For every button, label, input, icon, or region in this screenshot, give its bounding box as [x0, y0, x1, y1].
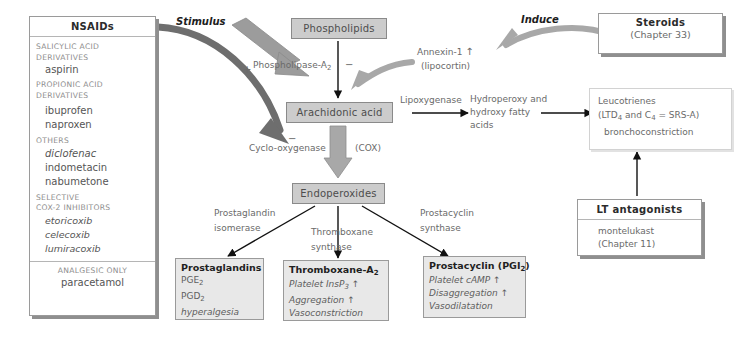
annexin-up-arrow-icon: ↑: [465, 46, 473, 57]
prostaglandin-isomerase-label: Prostaglandinisomerase: [214, 206, 275, 236]
prostacyclin-synthase-label: Prostacyclinsynthase: [420, 206, 474, 236]
thromboxane-synthase-label: Thromboxanesynthase: [311, 225, 373, 255]
nsaids-drug-naproxen[interactable]: naproxen: [36, 118, 149, 132]
phospholipase-plus-sign: +: [243, 64, 251, 76]
nsaids-category-salicylic: SALICYLIC ACIDDERIVATIVES: [36, 42, 149, 63]
arrow-annexin-to-phospholipase: [351, 62, 412, 90]
nsaids-drug-indometacin[interactable]: indometacin: [36, 161, 149, 175]
prostacyclin-line-2: Disaggregation ↑: [429, 287, 520, 300]
prostaglandins-box[interactable]: Prostaglandins PGE2 PGD2 hyperalgesia: [175, 258, 264, 320]
thromboxane-title: Thromboxane-A2: [289, 264, 383, 277]
thromboxane-up-arrow-1-icon: ↑: [352, 279, 360, 289]
leucotrienes-line-3: bronchoconstriction: [598, 125, 723, 139]
nsaids-header: NSAIDs: [30, 17, 155, 37]
phospholipids-label: Phospholipids: [303, 23, 374, 34]
cox-abbreviation-label: (COX): [355, 142, 381, 154]
prostaglandins-line-2: PGD2: [181, 290, 258, 306]
nsaids-category-analgesic: ANALGESIC ONLY: [36, 266, 149, 277]
prostaglandins-title: Prostaglandins: [181, 262, 258, 273]
phospholipase-text: Phospholipase-A: [253, 60, 327, 70]
phospholipase-minus-sign: −: [345, 59, 353, 71]
nsaids-body: SALICYLIC ACIDDERIVATIVES aspirin PROPIO…: [30, 37, 155, 294]
phospholipids-box[interactable]: Phospholipids: [291, 18, 387, 39]
endoperoxides-box[interactable]: Endoperoxides: [292, 183, 385, 204]
nsaids-drug-ibuprofen[interactable]: ibuprofen: [36, 104, 149, 118]
annexin-text: Annexin-1: [417, 47, 462, 57]
leucotrienes-line-2: (LTD4 and C4 = SRS-A): [598, 108, 723, 125]
prostacyclin-up-arrow-2-icon: ↑: [501, 288, 509, 298]
thromboxane-up-arrow-2-icon: ↑: [347, 295, 355, 305]
lt-antagonists-header: LT antagonists: [578, 200, 701, 220]
hydroperoxy-label: Hydroperoxy andhydroxy fattyacids: [470, 93, 547, 132]
arrow-arachidonic-to-endoperoxides: [324, 126, 352, 178]
leucotrienes-box[interactable]: Leucotrienes (LTD4 and C4 = SRS-A) bronc…: [589, 88, 732, 150]
nsaids-drug-lumiracoxib[interactable]: lumiracoxib: [36, 242, 149, 256]
prostacyclin-box[interactable]: Prostacyclin (PGI2) Platelet cAMP ↑ Disa…: [423, 256, 526, 318]
arrow-steroids-to-annexin: [496, 28, 612, 50]
lipoxygenase-label: Lipoxygenase: [400, 94, 462, 106]
nsaids-drug-aspirin[interactable]: aspirin: [36, 63, 149, 77]
lt-antagonists-body: montelukast (Chapter 11): [578, 220, 701, 251]
stimulus-label: Stimulus: [176, 16, 225, 28]
lt-antagonists-box[interactable]: LT antagonists montelukast (Chapter 11): [577, 199, 702, 256]
prostacyclin-line-1: Platelet cAMP ↑: [429, 274, 520, 287]
nsaids-category-others: OTHERS: [36, 136, 149, 147]
annexin-label: Annexin-1 ↑: [417, 46, 474, 58]
leucotrienes-line-1: Leucotrienes: [598, 94, 723, 108]
nsaids-drug-paracetamol[interactable]: paracetamol: [36, 276, 149, 290]
steroids-reference: (Chapter 33): [599, 29, 722, 40]
lt-antagonists-reference: (Chapter 11): [598, 238, 701, 251]
nsaids-category-propionic: PROPIONIC ACIDDERIVATIVES: [36, 80, 149, 101]
thromboxane-box[interactable]: Thromboxane-A2 Platelet InsP3 ↑ Aggregat…: [283, 260, 389, 321]
nsaids-drug-nabumetone[interactable]: nabumetone: [36, 175, 149, 189]
nsaids-box[interactable]: NSAIDs SALICYLIC ACIDDERIVATIVES aspirin…: [29, 16, 156, 316]
prostaglandins-line-3: hyperalgesia: [181, 306, 258, 319]
prostacyclin-line-3: Vasodilatation: [429, 300, 520, 313]
lipocortin-label: (lipocortin): [421, 60, 470, 72]
thromboxane-line-1: Platelet InsP3 ↑: [289, 278, 383, 294]
endoperoxides-label: Endoperoxides: [300, 188, 376, 199]
phospholipase-label: Phospholipase-A2: [253, 59, 331, 74]
nsaids-drug-etoricoxib[interactable]: etoricoxib: [36, 214, 149, 228]
nsaids-drug-celecoxib[interactable]: celecoxib: [36, 228, 149, 242]
nsaids-drug-diclofenac[interactable]: diclofenac: [36, 147, 149, 161]
steroids-header: Steroids: [599, 14, 722, 29]
steroids-box[interactable]: Steroids (Chapter 33): [598, 13, 723, 54]
arachidonic-acid-label: Arachidonic acid: [297, 107, 383, 118]
thromboxane-line-2: Aggregation ↑: [289, 294, 383, 307]
cyclooxygenase-label: Cyclo-oxygenase: [249, 142, 326, 154]
arachidonic-acid-box[interactable]: Arachidonic acid: [286, 102, 393, 123]
nsaids-divider: [30, 261, 155, 262]
thromboxane-line-3: Vasoconstriction: [289, 307, 383, 320]
prostaglandins-line-1: PGE2: [181, 274, 258, 290]
prostacyclin-title: Prostacyclin (PGI2): [429, 260, 520, 273]
lt-antagonists-drug[interactable]: montelukast: [598, 225, 701, 238]
phospholipase-subscript: 2: [327, 64, 331, 72]
pathway-diagram: NSAIDs SALICYLIC ACIDDERIVATIVES aspirin…: [0, 0, 734, 338]
prostacyclin-up-arrow-1-icon: ↑: [493, 275, 501, 285]
induce-label: Induce: [521, 14, 559, 26]
nsaids-category-cox2: SELECTIVECOX-2 INHIBITORS: [36, 193, 149, 214]
arrow-nsaids-to-cyclooxygenase: [158, 27, 289, 144]
